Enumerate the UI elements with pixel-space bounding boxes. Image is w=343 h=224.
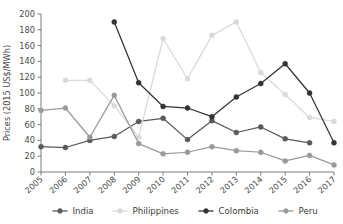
x-axis-ticks: 2005200620072008200920102011201220132014… <box>23 172 338 195</box>
data-point <box>63 145 68 150</box>
series-philippines <box>63 19 337 139</box>
data-point <box>332 162 337 167</box>
chart-canvas: Prices (2015 US$/MWh) 020406080100120140… <box>0 0 343 224</box>
data-point <box>258 70 263 75</box>
axis-lines <box>41 14 334 172</box>
series-line <box>114 22 334 143</box>
legend-label: India <box>73 206 94 216</box>
data-point <box>234 148 239 153</box>
data-point <box>136 80 141 85</box>
data-series-layer <box>39 19 337 167</box>
legend-swatch-marker <box>58 209 63 214</box>
data-point <box>209 114 214 119</box>
x-tick-label: 2014 <box>242 174 264 195</box>
x-tick-label: 2010 <box>145 174 167 195</box>
chart-legend: IndiaPhilippinesColombiaPeru <box>53 206 318 216</box>
x-tick-label: 2005 <box>23 174 45 195</box>
data-point <box>185 76 190 81</box>
data-point <box>112 103 117 108</box>
data-point <box>234 19 239 24</box>
x-tick-label: 2009 <box>120 174 142 195</box>
data-point <box>39 144 44 149</box>
y-tick-label: 60 <box>25 120 35 130</box>
data-point <box>283 158 288 163</box>
data-point <box>209 144 214 149</box>
data-point <box>161 116 166 121</box>
data-point <box>185 150 190 155</box>
y-tick-label: 200 <box>19 9 35 19</box>
y-tick-label: 140 <box>19 56 35 66</box>
x-tick-label: 2007 <box>71 174 93 195</box>
legend-item-peru[interactable]: Peru <box>279 206 318 216</box>
x-tick-label: 2006 <box>47 174 69 195</box>
y-tick-label: 80 <box>25 104 35 114</box>
data-point <box>185 106 190 111</box>
data-point <box>307 115 312 120</box>
y-axis-title-text: Prices (2015 US$/MWh) <box>2 45 12 141</box>
legend-label: Peru <box>299 206 318 216</box>
x-tick-label: 2016 <box>291 174 313 195</box>
y-tick-label: 100 <box>19 88 35 98</box>
y-tick-label: 20 <box>25 151 35 161</box>
y-tick-label: 180 <box>19 25 35 35</box>
y-tick-label: 0 <box>30 167 35 177</box>
legend-item-philippines[interactable]: Philippines <box>113 206 180 216</box>
data-point <box>332 119 337 124</box>
data-point <box>161 36 166 41</box>
data-point <box>185 137 190 142</box>
data-point <box>307 140 312 145</box>
data-point <box>63 106 68 111</box>
data-point <box>63 78 68 83</box>
y-tick-label: 40 <box>25 135 35 145</box>
data-point <box>112 93 117 98</box>
data-point <box>112 19 117 24</box>
data-point <box>87 135 92 140</box>
line-chart: Prices (2015 US$/MWh) 020406080100120140… <box>0 0 343 224</box>
x-tick-label: 2012 <box>194 174 216 195</box>
legend-item-india[interactable]: India <box>53 206 94 216</box>
data-point <box>283 136 288 141</box>
data-point <box>136 141 141 146</box>
legend-item-colombia[interactable]: Colombia <box>199 206 259 216</box>
y-axis-ticks: 020406080100120140160180200 <box>19 9 41 177</box>
y-tick-label: 120 <box>19 72 35 82</box>
x-tick-label: 2011 <box>169 174 191 195</box>
data-point <box>161 104 166 109</box>
data-point <box>258 124 263 129</box>
y-axis-title: Prices (2015 US$/MWh) <box>2 45 12 141</box>
data-point <box>136 119 141 124</box>
x-tick-label: 2013 <box>218 174 240 195</box>
data-point <box>258 150 263 155</box>
data-point <box>283 92 288 97</box>
x-tick-label: 2015 <box>267 174 289 195</box>
series-line <box>65 22 334 137</box>
series-line <box>41 118 310 147</box>
data-point <box>87 78 92 83</box>
data-point <box>234 94 239 99</box>
data-point <box>39 108 44 113</box>
data-point <box>161 151 166 156</box>
data-point <box>234 130 239 135</box>
series-india <box>39 116 313 150</box>
x-tick-label: 2017 <box>316 174 338 195</box>
data-point <box>258 81 263 86</box>
data-point <box>307 153 312 158</box>
data-point <box>332 140 337 145</box>
data-point <box>209 33 214 38</box>
series-peru <box>39 93 337 168</box>
x-tick-label: 2008 <box>96 174 118 195</box>
legend-swatch-marker <box>204 209 209 214</box>
data-point <box>307 91 312 96</box>
legend-swatch-marker <box>284 209 289 214</box>
legend-swatch-marker <box>118 209 123 214</box>
y-tick-label: 160 <box>19 41 35 51</box>
data-point <box>112 134 117 139</box>
legend-label: Colombia <box>219 206 259 216</box>
data-point <box>283 61 288 66</box>
legend-label: Philippines <box>133 206 180 216</box>
